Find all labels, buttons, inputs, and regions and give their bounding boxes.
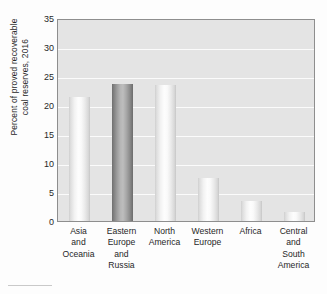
y-tick-label: 20 <box>30 102 54 111</box>
bar-chart-figure: Percent of proved recoverable coal reser… <box>0 0 327 294</box>
y-tick-label: 25 <box>30 73 54 82</box>
bars-group <box>58 20 314 221</box>
bar <box>241 201 263 221</box>
bar <box>69 97 91 221</box>
y-tick-label: 35 <box>30 15 54 24</box>
y-tick-label: 10 <box>30 160 54 169</box>
y-tick-label: 30 <box>30 44 54 53</box>
bar <box>284 212 306 221</box>
y-tick-label: 5 <box>30 189 54 198</box>
bar <box>155 85 177 221</box>
plot-area <box>57 19 315 222</box>
y-tick-label: 15 <box>30 131 54 140</box>
bar <box>198 178 220 221</box>
x-tick-label: Central and South America <box>267 226 320 272</box>
scan-artifact-line <box>8 285 52 286</box>
x-axis-category-labels: Asia and OceaniaEastern Europe and Russi… <box>57 226 315 294</box>
y-axis-tick-labels: 35302520151050 <box>30 0 54 294</box>
bar <box>112 84 134 221</box>
y-tick-label: 0 <box>30 218 54 227</box>
